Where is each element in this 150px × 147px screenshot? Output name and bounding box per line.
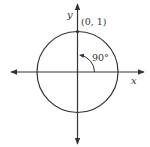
point-label: (0, 1)	[81, 16, 107, 27]
angle-label: 90°	[92, 52, 109, 63]
point-0-1	[76, 30, 79, 33]
x-axis-label: x	[131, 75, 137, 86]
unit-circle-diagram: y (0, 1) 90° x	[0, 0, 150, 147]
y-axis-label: y	[66, 9, 73, 20]
